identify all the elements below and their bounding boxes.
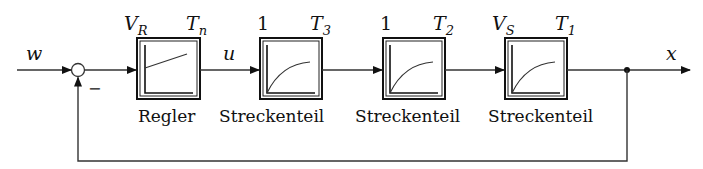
- input-label-w: w: [26, 42, 42, 64]
- param-vr: VR: [124, 12, 148, 38]
- param-gain-1: 1: [380, 12, 392, 34]
- control-label-u: u: [223, 42, 235, 64]
- param-t3: T3: [310, 12, 331, 38]
- param-t2: T2: [433, 12, 454, 38]
- summing-junction: [72, 64, 85, 77]
- block-streckenteil-t1: VS T1 Streckenteil: [488, 12, 593, 126]
- feedback-minus-sign: −: [88, 79, 101, 98]
- control-loop-diagram: w − VR Tn Regler u 1 T3 Streckenteil 1 T…: [0, 0, 703, 169]
- block-regler: VR Tn Regler: [124, 12, 207, 126]
- block-label-streckenteil: Streckenteil: [219, 106, 324, 126]
- block-streckenteil-t2: 1 T2 Streckenteil: [355, 12, 460, 126]
- param-vs: VS: [492, 12, 515, 38]
- block-label-streckenteil: Streckenteil: [355, 106, 460, 126]
- param-tn: Tn: [186, 12, 207, 38]
- output-label-x: x: [666, 42, 677, 64]
- param-t1: T1: [555, 12, 576, 38]
- block-label-regler: Regler: [138, 106, 196, 126]
- param-gain-1: 1: [257, 12, 269, 34]
- block-streckenteil-t3: 1 T3 Streckenteil: [219, 12, 331, 126]
- block-label-streckenteil: Streckenteil: [488, 106, 593, 126]
